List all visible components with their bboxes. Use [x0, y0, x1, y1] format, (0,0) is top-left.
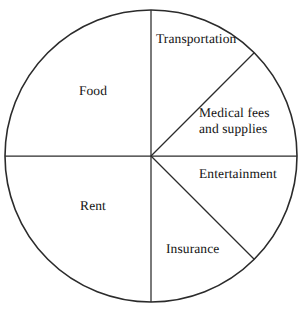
pie-chart: Food Rent Transportation Medical fees an…: [0, 0, 307, 315]
pie-chart-svg: [0, 0, 307, 315]
slice-label-insurance: Insurance: [166, 241, 258, 257]
slice-label-medical-fees-and-supplies: Medical fees and supplies: [199, 105, 299, 136]
slice-label-entertainment: Entertainment: [199, 166, 303, 182]
slice-label-transportation: Transportation: [156, 31, 264, 47]
slice-label-rent: Rent: [58, 198, 128, 214]
slice-label-food: Food: [58, 83, 128, 99]
